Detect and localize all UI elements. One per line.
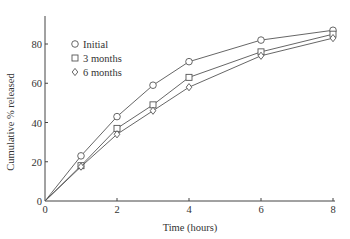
y-tick-label: 80	[32, 39, 43, 50]
y-tick-label: 60	[32, 78, 43, 89]
release-profile-chart: 02468020406080 Initial3 months6 months T…	[0, 0, 350, 239]
y-tick-label: 0	[37, 196, 42, 207]
circle-marker	[186, 58, 193, 65]
y-tick-label: 40	[32, 118, 43, 129]
x-tick-label: 4	[186, 204, 192, 215]
x-axis-title: Time (hours)	[163, 222, 218, 234]
legend-circle-icon	[72, 41, 79, 48]
x-tick-label: 2	[114, 204, 119, 215]
legend-label: 3 months	[83, 53, 122, 64]
circle-marker	[150, 82, 157, 89]
y-tick-label: 20	[32, 157, 43, 168]
x-tick-label: 8	[330, 204, 335, 215]
circle-marker	[114, 113, 121, 120]
x-tick-label: 6	[258, 204, 263, 215]
legend: Initial3 months6 months	[72, 39, 122, 78]
circle-marker	[78, 153, 85, 160]
x-tick-label: 0	[42, 204, 47, 215]
circle-marker	[258, 37, 265, 44]
legend-diamond-icon	[72, 68, 78, 75]
y-axis-title: Cumulative % released	[5, 73, 16, 171]
legend-square-icon	[72, 55, 78, 61]
diamond-marker	[186, 84, 192, 91]
square-marker	[186, 74, 192, 80]
legend-label: 6 months	[83, 67, 122, 78]
legend-label: Initial	[83, 39, 108, 50]
